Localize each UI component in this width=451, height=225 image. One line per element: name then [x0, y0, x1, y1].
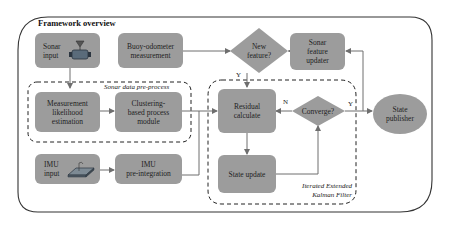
diagram-title: Framework overview — [38, 18, 116, 28]
converge-yes-label: Y — [348, 100, 353, 108]
imu-input-node: IMU input — [35, 154, 100, 184]
converge-label: Converge? — [294, 107, 342, 116]
new-feature-yes-label: Y — [236, 71, 241, 79]
buoy-odometer-node: Buoy-odometer measurement — [118, 33, 183, 68]
state-publisher-label: State publisher — [375, 105, 425, 123]
sonar-feature-updater-node: Sonar feature updater — [290, 33, 345, 70]
converge-no-label: N — [283, 98, 288, 106]
residual-calculate-node: Residual calculate — [218, 89, 276, 133]
sonar-device-icon — [68, 40, 92, 62]
measurement-likelihood-node: Measurement likelihood estimation — [35, 92, 100, 132]
new-feature-label: New feature? — [236, 42, 282, 60]
sonar-input-node: Sonar input — [35, 33, 100, 68]
imu-board-icon — [66, 160, 96, 180]
state-update-node: State update — [218, 155, 276, 193]
imu-preintegration-node: IMU pre-integration — [115, 154, 182, 184]
clustering-module-node: Clustering- based process module — [115, 92, 182, 132]
iekf-label: Iterated Extended Kalman Filter — [300, 182, 352, 200]
framework-diagram: Framework overview Sonar input Buoy-odom… — [0, 0, 451, 225]
sonar-preprocess-label: Sonar data pre-process — [104, 83, 169, 92]
